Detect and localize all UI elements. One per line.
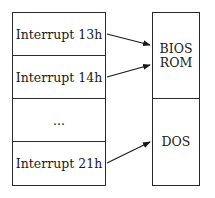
arrow-14h-to-bios — [107, 65, 150, 77]
arrows-layer — [0, 0, 215, 198]
arrow-13h-to-bios — [107, 34, 150, 45]
arrow-21h-to-dos — [107, 142, 150, 163]
